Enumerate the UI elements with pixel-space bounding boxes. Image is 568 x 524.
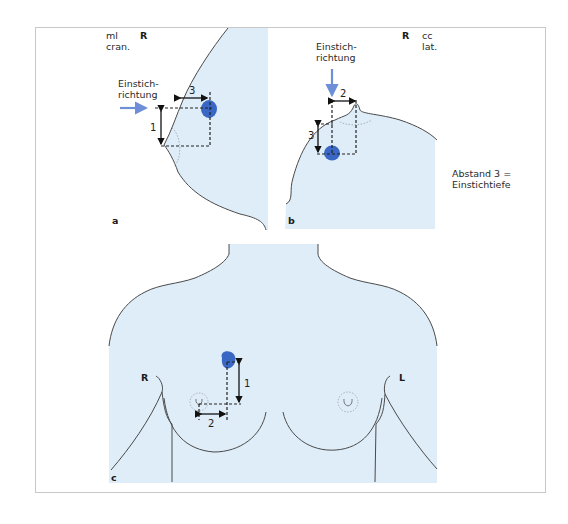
direction-label-b-1: Einstich-	[316, 41, 357, 52]
side-label-right: R	[141, 372, 149, 383]
projection-label-a-2: cran.	[106, 41, 130, 52]
note-line-2: Einstichtiefe	[452, 179, 511, 190]
lesion-a	[201, 100, 217, 118]
projection-label-a-1: ml	[106, 30, 118, 41]
breast-tissue-a	[164, 28, 270, 230]
measure-label-3-b: 3	[308, 130, 314, 141]
side-label-b: R	[402, 30, 410, 41]
panel-b: 2 3 Einstich- richtung R cc lat. Abstand…	[285, 30, 511, 230]
measure-label-1-c: 1	[244, 378, 250, 389]
note-line-1: Abstand 3 =	[452, 168, 511, 179]
panel-letter-a: a	[112, 215, 118, 226]
direction-label-a-1: Einstich-	[118, 78, 159, 89]
measure-label-2-c: 2	[208, 418, 214, 429]
measure-label-2-b: 2	[340, 88, 346, 99]
panel-letter-c: c	[111, 472, 117, 483]
side-label-left: L	[399, 372, 405, 383]
localization-diagram: 3 1 Einstich- richtung ml cran. R a 2 3 …	[0, 0, 568, 524]
projection-label-b-2: lat.	[422, 41, 437, 52]
side-label-a: R	[140, 30, 148, 41]
panel-letter-b: b	[288, 215, 295, 226]
breast-tissue-b	[285, 104, 437, 230]
direction-label-b-2: richtung	[316, 52, 356, 63]
direction-label-a-2: richtung	[118, 89, 158, 100]
measure-label-1-a: 1	[150, 122, 156, 133]
projection-label-b-1: cc	[422, 30, 432, 41]
torso-tissue	[109, 244, 437, 483]
measure-label-3-a: 3	[189, 85, 195, 96]
panel-c: 1 2 R L c	[109, 244, 437, 483]
panel-a: 3 1 Einstich- richtung ml cran. R a	[106, 28, 270, 230]
